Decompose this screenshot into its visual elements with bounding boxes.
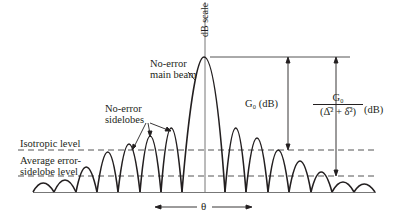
theta-label: θ: [201, 201, 206, 212]
ratio-denominator: (Δ̅² + δ̅²): [313, 105, 363, 118]
ratio-fraction: G₀ (Δ̅² + δ̅²): [313, 92, 363, 118]
pattern-curve: [33, 57, 375, 192]
main-beam-label-line1: No-error: [150, 58, 187, 69]
main-beam-label-line2: main beam: [150, 69, 196, 80]
sidelobes-label-line2: sidelobes: [105, 114, 144, 125]
gain-label: G₀ (dB): [245, 98, 278, 109]
isotropic-level-label: Isotropic level: [20, 138, 80, 149]
axis-label: dB scale: [199, 3, 210, 37]
ratio-numerator: G₀: [313, 92, 363, 105]
avg-sidelobe-label-line2: sidelobe level: [20, 166, 78, 177]
sidelobes-label-line1: No-error: [105, 103, 142, 114]
avg-sidelobe-label-line1: Average error-: [20, 155, 81, 166]
ratio-unit: (dB): [364, 104, 383, 115]
gain-arrow: [286, 57, 290, 150]
